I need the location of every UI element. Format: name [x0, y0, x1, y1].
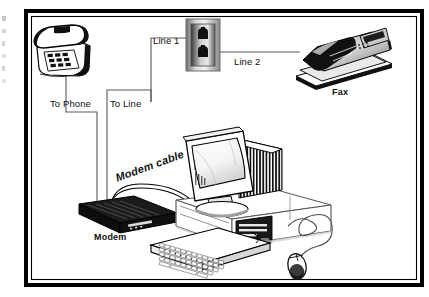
label-modem: Modem	[94, 233, 127, 242]
figure-canvas: Line 1 Line 2 To Phone To Line Fax Modem…	[0, 0, 429, 297]
wall-phone-jack	[186, 19, 220, 71]
label-line-2: Line 2	[234, 57, 260, 67]
label-to-phone: To Phone	[50, 99, 91, 109]
modem-connection-diagram	[0, 0, 429, 297]
label-fax: Fax	[332, 88, 348, 97]
desk-telephone	[34, 25, 90, 77]
label-line-1: Line 1	[153, 36, 179, 46]
label-to-line: To Line	[110, 99, 141, 109]
